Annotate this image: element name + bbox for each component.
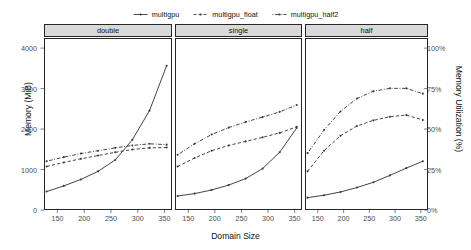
data-point [296, 126, 298, 128]
y-tick-label-left: 1000 [21, 165, 37, 174]
x-tick-label: 200 [209, 214, 221, 223]
series-line-multigpu_half2 [308, 88, 423, 153]
x-axis-title: Domain Size [0, 231, 471, 241]
y-tick-label-left: 4000 [21, 44, 37, 53]
data-point [245, 140, 247, 142]
legend-entry-multigpu-float[interactable]: multigpu_float [193, 10, 257, 19]
data-point [323, 129, 325, 131]
x-tick-label: 250 [363, 214, 375, 223]
data-point [114, 151, 116, 153]
data-point [306, 152, 308, 154]
data-point [245, 121, 247, 123]
x-tick-label: 300 [262, 214, 274, 223]
data-point [279, 151, 281, 153]
data-point [80, 158, 82, 160]
data-point [306, 170, 308, 172]
legend-label-multigpu: multigpu [152, 10, 180, 19]
data-point [80, 152, 82, 154]
y-tick-label-right: 75% [427, 84, 441, 93]
panel-double [44, 38, 172, 210]
data-point [194, 157, 196, 159]
data-point [228, 184, 230, 186]
data-point [63, 156, 65, 158]
data-point [356, 97, 358, 99]
y-tick-label-right: 50% [427, 125, 441, 134]
data-point [296, 104, 298, 106]
data-point [148, 143, 150, 145]
facet-strip-double: double [44, 24, 172, 37]
x-tick-label: 350 [159, 214, 171, 223]
data-point [131, 139, 133, 141]
data-point [228, 144, 230, 146]
data-point [148, 147, 150, 149]
data-point [166, 65, 168, 67]
series-line-multigpu [178, 128, 297, 196]
legend-key-solid-icon [133, 10, 148, 19]
y-tick-label-right: 0% [427, 206, 437, 215]
series-line-multigpu [47, 66, 167, 192]
chart-figure: multigpu multigpu_float multigpu_half2 M… [0, 0, 471, 250]
x-tick-label: 250 [105, 214, 117, 223]
data-point [422, 160, 424, 162]
data-point [211, 189, 213, 191]
data-point [339, 191, 341, 193]
data-point [422, 93, 424, 95]
series-line-multigpu [308, 161, 423, 197]
data-point [279, 132, 281, 134]
data-point [372, 181, 374, 183]
series-line-multigpu_half2 [47, 144, 167, 161]
x-tick-label: 350 [415, 214, 427, 223]
data-point [114, 159, 116, 161]
x-tick-label: 250 [235, 214, 247, 223]
facet-strip-label: half [361, 26, 373, 35]
data-point [262, 116, 264, 118]
legend-key-dashed-icon [193, 10, 208, 19]
facet-strip-half: half [305, 24, 428, 37]
data-point [63, 161, 65, 163]
data-point [177, 165, 179, 167]
y-axis-left-ticks: 40003000200010000 [11, 0, 37, 250]
legend-label-multigpu-float: multigpu_float [212, 10, 257, 19]
x-tick-label: 200 [338, 214, 350, 223]
data-point [177, 154, 179, 156]
panel-half [305, 38, 428, 210]
data-point [262, 167, 264, 169]
x-tick-label: 150 [51, 214, 63, 223]
data-point [194, 193, 196, 195]
data-point [131, 148, 133, 150]
data-point [80, 178, 82, 180]
data-point [389, 116, 391, 118]
facet-strip-single: single [175, 24, 302, 37]
data-point [148, 110, 150, 112]
data-point [97, 155, 99, 157]
legend-entry-multigpu-half2[interactable]: multigpu_half2 [272, 10, 338, 19]
legend-label-multigpu-half2: multigpu_half2 [291, 10, 338, 19]
y-axis-right-ticks: 100%75%50%25%0% [427, 0, 457, 250]
y-tick-label-right: 25% [427, 165, 441, 174]
y-tick-label-left: 0 [33, 206, 37, 215]
x-tick-label: 200 [78, 214, 90, 223]
data-point [405, 114, 407, 116]
x-tick-label: 300 [132, 214, 144, 223]
data-point [97, 150, 99, 152]
legend-entry-multigpu[interactable]: multigpu [133, 10, 180, 19]
data-point [166, 146, 168, 148]
data-point [177, 195, 179, 197]
series-line-multigpu_float [308, 115, 423, 171]
x-tick-label: 150 [182, 214, 194, 223]
x-tick-label: 150 [312, 214, 324, 223]
data-point [211, 133, 213, 135]
legend-key-dotdash-icon [272, 10, 287, 19]
data-point [194, 143, 196, 145]
y-tick-label-right: 100% [427, 44, 445, 53]
y-tick-label-left: 2000 [21, 125, 37, 134]
data-point [228, 127, 230, 129]
data-point [323, 150, 325, 152]
data-point [279, 111, 281, 113]
y-tick-label-left: 3000 [21, 84, 37, 93]
facet-strip-label: single [229, 26, 248, 35]
data-point [389, 87, 391, 89]
data-point [356, 186, 358, 188]
data-point [306, 197, 308, 199]
x-tick-label: 300 [389, 214, 401, 223]
